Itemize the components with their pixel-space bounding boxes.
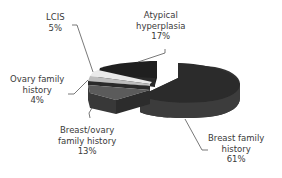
label-atypical-hyperplasia: Atypical hyperplasia 17% [136, 10, 186, 42]
label-ovary-family-history: Ovary family history 4% [10, 74, 64, 106]
label-breast-ovary-family-history: Breast/ovary family history 13% [58, 125, 116, 157]
label-breast-family-history: Breast family history 61% [208, 133, 264, 165]
label-lcis: LCIS 5% [46, 12, 65, 33]
